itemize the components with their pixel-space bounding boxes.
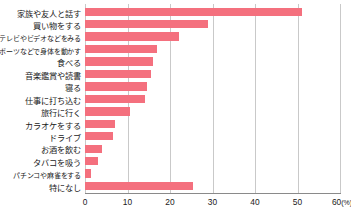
category-label: 寝る bbox=[65, 83, 81, 95]
plot-area bbox=[85, 4, 340, 193]
bar-row bbox=[85, 118, 340, 130]
bar-row bbox=[85, 31, 340, 43]
bar-row bbox=[85, 168, 340, 180]
bar-chart: 家族や友人と話す買い物をするテレビやビデオなどをみるスポーツなどで身体を動かす食… bbox=[0, 0, 351, 220]
bar-row bbox=[85, 56, 340, 68]
bar bbox=[85, 32, 179, 40]
bar-row bbox=[85, 143, 340, 155]
bar-row bbox=[85, 180, 340, 192]
x-axis-line bbox=[85, 193, 341, 194]
bar bbox=[85, 70, 151, 78]
bar-row bbox=[85, 81, 340, 93]
x-axis-tick-labels: 0102030405060(%) bbox=[0, 195, 351, 215]
bar bbox=[85, 157, 98, 165]
x-tick-label-60: 60(%) bbox=[332, 197, 351, 207]
category-label: 食べる bbox=[57, 58, 81, 70]
bar bbox=[85, 57, 153, 65]
x-axis-unit-label: (%) bbox=[341, 199, 351, 206]
bar bbox=[85, 169, 91, 177]
bar bbox=[85, 45, 157, 53]
bar-row bbox=[85, 68, 340, 80]
bar bbox=[85, 8, 302, 16]
category-label: スポーツなどで身体を動かす bbox=[0, 46, 81, 58]
gridline-60 bbox=[340, 4, 341, 193]
category-label: 仕事に打ち込む bbox=[25, 96, 81, 108]
category-label: 音楽鑑賞や読書 bbox=[25, 71, 81, 83]
bar bbox=[85, 120, 115, 128]
bar-row bbox=[85, 155, 340, 167]
category-label: 買い物をする bbox=[33, 21, 81, 33]
x-tick-label-50: 50 bbox=[293, 197, 302, 207]
category-label-column: 家族や友人と話す買い物をするテレビやビデオなどをみるスポーツなどで身体を動かす食… bbox=[0, 6, 83, 191]
bar bbox=[85, 182, 193, 190]
category-label: 旅行に行く bbox=[41, 108, 81, 120]
bar-row bbox=[85, 6, 340, 18]
category-label: ドライブ bbox=[49, 133, 81, 145]
bar bbox=[85, 95, 145, 103]
bar-row bbox=[85, 43, 340, 55]
bar-row bbox=[85, 93, 340, 105]
bar bbox=[85, 107, 130, 115]
x-tick-label-20: 20 bbox=[165, 197, 174, 207]
bar-row bbox=[85, 106, 340, 118]
x-tick-label-10: 10 bbox=[123, 197, 132, 207]
bar bbox=[85, 82, 147, 90]
x-tick-label-30: 30 bbox=[208, 197, 217, 207]
x-tick-label-0: 0 bbox=[83, 197, 88, 207]
category-label: タバコを吸う bbox=[33, 158, 81, 170]
category-label: お酒を飲む bbox=[41, 145, 81, 157]
x-tick-label-40: 40 bbox=[250, 197, 259, 207]
bar-row bbox=[85, 18, 340, 30]
category-label: 特になし bbox=[49, 183, 81, 195]
category-label: テレビやビデオなどをみる bbox=[0, 33, 81, 45]
bar bbox=[85, 20, 208, 28]
category-label: パチンコや麻雀をする bbox=[13, 170, 81, 182]
bar bbox=[85, 145, 102, 153]
bar-row bbox=[85, 131, 340, 143]
category-label: 家族や友人と話す bbox=[17, 9, 81, 21]
category-label: カラオケをする bbox=[25, 121, 81, 133]
bar bbox=[85, 132, 113, 140]
